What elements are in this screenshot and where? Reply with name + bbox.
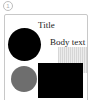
black-circle-shape: [8, 28, 41, 61]
card-title: Title: [38, 20, 55, 30]
gray-circle-shape: [11, 66, 37, 92]
step-number-badge: 1: [3, 1, 13, 11]
black-rectangle-shape: [38, 63, 83, 98]
card-body-text: Body text: [50, 37, 85, 47]
